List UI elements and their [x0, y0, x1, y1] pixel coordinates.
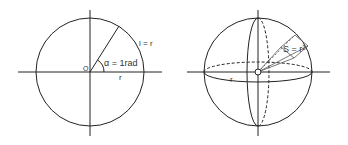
- radian-diagram: [18, 10, 162, 136]
- arc-length-label: l = r: [139, 39, 153, 48]
- center-point: [255, 69, 261, 75]
- area-label: S = r²: [283, 44, 305, 54]
- angle-label: α = 1rad: [104, 58, 137, 68]
- origin-label: O: [83, 65, 89, 72]
- radius-label-left: r: [119, 73, 122, 82]
- steradian-diagram: [187, 10, 330, 136]
- diagram-canvas: O α = 1rad l = r r S = r² r: [0, 0, 348, 145]
- radius-label-right: r: [230, 75, 233, 84]
